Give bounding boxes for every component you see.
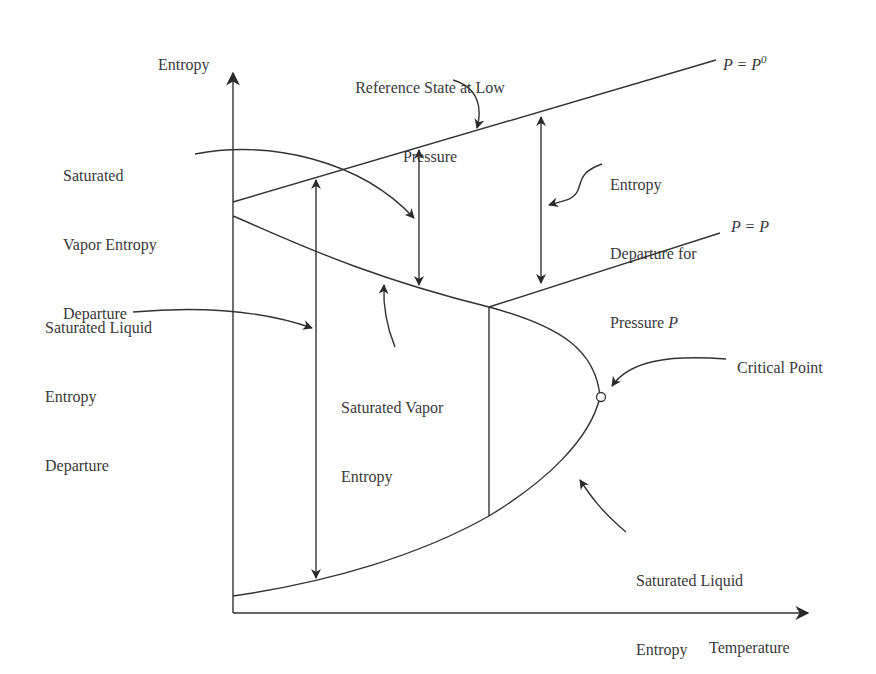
pressure-departure-line3: Pressure P [610,311,697,334]
reference-isobar-superscript: 0 [761,53,767,65]
sat-vapor-entropy-label: Saturated Vapor Entropy [341,350,443,511]
sat-liquid-entropy-pointer [580,480,626,532]
sat-liquid-departure-pointer [133,309,312,328]
sat-vapor-entropy-line1: Saturated Vapor [341,396,443,419]
pressure-departure-line1: Entropy [610,173,697,196]
saturated-vapor-curve [233,216,489,307]
reference-state-line1: Reference State at Low [345,76,515,99]
pressure-departure-pointer [549,164,602,205]
sat-liquid-departure-line3: Departure [45,454,152,477]
reference-isobar-label: P = P0 [723,48,767,76]
sat-liquid-departure-line2: Entropy [45,385,152,408]
pressure-isobar-label: P = P [731,215,769,238]
sat-vapor-entropy-line2: Entropy [341,465,443,488]
sat-vapor-entropy-pointer [384,285,395,347]
sat-liquid-entropy-label: Saturated Liquid Entropy [636,523,743,674]
reference-state-label: Reference State at Low Pressure [345,30,515,191]
saturated-vapor-dome-curve [489,307,600,397]
critical-point-label: Critical Point [737,356,823,379]
pressure-departure-line3-text: Pressure [610,314,668,331]
pressure-departure-line3-symbol: P [668,314,678,331]
pressure-departure-label: Entropy Departure for Pressure P [610,127,697,357]
reference-isobar-label-text: P = P [723,56,761,73]
sat-liquid-entropy-line1: Saturated Liquid [636,569,743,592]
y-axis-label: Entropy [158,53,210,76]
sat-vapor-departure-line2: Vapor Entropy [63,233,157,256]
sat-vapor-departure-line1: Saturated [63,164,157,187]
critical-point-marker [597,393,606,402]
sat-liquid-entropy-line2: Entropy [636,638,743,661]
sat-liquid-departure-label: Saturated Liquid Entropy Departure [45,270,152,500]
pressure-departure-line2: Departure for [610,242,697,265]
reference-state-line2: Pressure [345,145,515,168]
critical-point-pointer [612,358,726,386]
sat-liquid-departure-line1: Saturated Liquid [45,316,152,339]
